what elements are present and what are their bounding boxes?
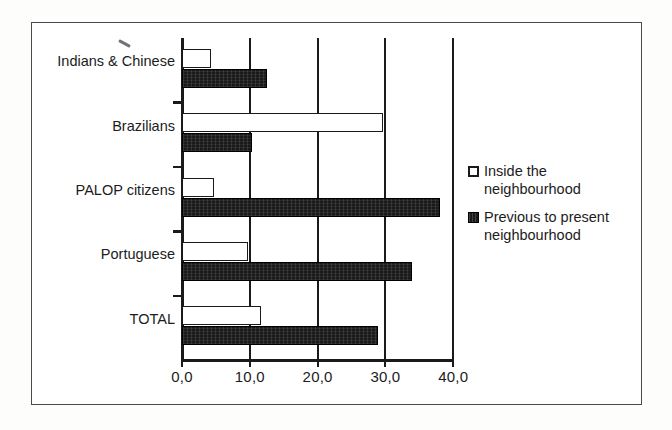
bar-previous-3	[182, 262, 412, 281]
category-label-3: Portuguese	[15, 246, 175, 262]
category-label-4: TOTAL	[15, 311, 175, 327]
category-label-2: PALOP citizens	[15, 182, 175, 198]
gridline-40,0	[452, 38, 454, 360]
bar-previous-2	[182, 198, 440, 217]
x-tick-30,0	[384, 353, 386, 367]
legend-label-previous-line1: Previous to present	[484, 209, 609, 225]
legend-label-previous-line2: neighbourhood	[484, 227, 581, 243]
legend-label-inside: Inside the neighbourhood	[484, 163, 581, 198]
legend-label-previous: Previous to present neighbourhood	[484, 209, 609, 244]
legend-item-inside: Inside the neighbourhood	[468, 163, 633, 198]
x-tick-label-20,0: 20,0	[303, 368, 333, 385]
bar-previous-4	[182, 326, 378, 345]
bar-previous-1	[182, 133, 252, 152]
bar-inside-3	[182, 242, 248, 261]
bar-inside-1	[182, 113, 383, 132]
category-label-1: Brazilians	[15, 118, 175, 134]
x-tick-label-10,0: 10,0	[235, 368, 265, 385]
bar-previous-0	[182, 69, 267, 88]
legend-swatch-hollow-square-icon	[468, 166, 479, 177]
x-tick-40,0	[452, 353, 454, 367]
x-tick-20,0	[317, 353, 319, 367]
legend-item-previous: Previous to present neighbourhood	[468, 209, 633, 244]
x-tick-label-30,0: 30,0	[370, 368, 400, 385]
legend-swatch-filled-square-icon	[468, 212, 479, 223]
bar-inside-0	[182, 49, 211, 68]
bar-inside-2	[182, 178, 214, 197]
bar-inside-4	[182, 306, 261, 325]
x-tick-label-40,0: 40,0	[438, 368, 468, 385]
chart-legend: Inside the neighbourhood Previous to pre…	[468, 163, 633, 256]
legend-label-inside-line2: neighbourhood	[484, 181, 581, 197]
x-tick-10,0	[249, 353, 251, 367]
legend-label-inside-line1: Inside the	[484, 163, 547, 179]
x-tick-0,0	[181, 353, 183, 367]
y-axis-category-labels: Indians & ChineseBraziliansPALOP citizen…	[12, 0, 175, 430]
category-label-0: Indians & Chinese	[15, 53, 175, 69]
